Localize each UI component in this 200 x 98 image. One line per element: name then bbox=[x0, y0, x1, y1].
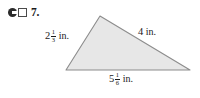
base-whole-number: 5 bbox=[109, 74, 114, 85]
left-whole-number: 2 bbox=[45, 31, 50, 42]
left-numerator: 1 bbox=[51, 29, 55, 36]
label-left-side: 2 1 3 in. bbox=[45, 29, 69, 44]
left-denominator: 3 bbox=[51, 37, 55, 44]
base-numerator: 1 bbox=[115, 72, 119, 79]
left-fraction: 1 3 bbox=[51, 29, 56, 44]
right-unit: in. bbox=[146, 27, 156, 37]
right-whole-number: 4 bbox=[138, 27, 143, 38]
base-unit: in. bbox=[123, 74, 133, 84]
exercise-figure: 7. 2 1 3 in. 4 in. 5 1 6 in. bbox=[0, 0, 200, 98]
triangle-shape bbox=[0, 0, 200, 98]
base-denominator: 6 bbox=[115, 80, 119, 87]
label-base-side: 5 1 6 in. bbox=[109, 72, 133, 87]
base-fraction: 1 6 bbox=[115, 72, 120, 87]
triangle-polygon bbox=[66, 16, 190, 70]
left-unit: in. bbox=[59, 31, 69, 41]
label-right-side: 4 in. bbox=[138, 27, 156, 38]
